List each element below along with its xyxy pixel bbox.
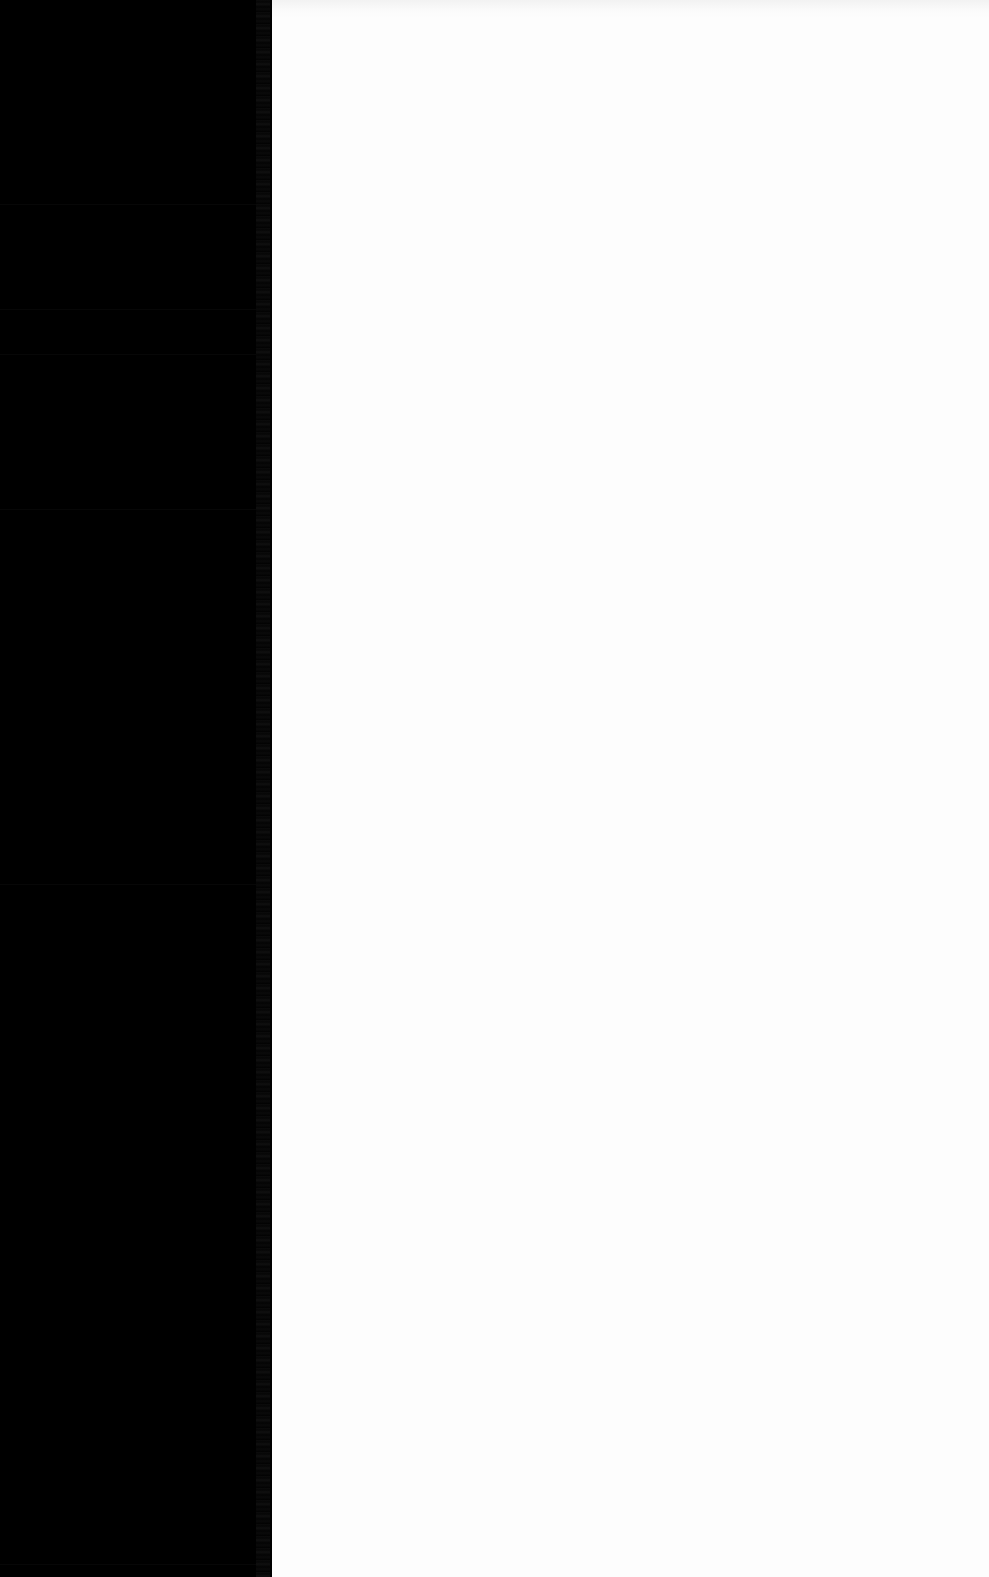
sidebar-item-3[interactable]	[0, 310, 256, 355]
faint-text-row	[290, 824, 978, 846]
main-content	[272, 0, 989, 1577]
sidebar-item-7[interactable]	[0, 1565, 256, 1577]
sidebar-item-5[interactable]	[0, 510, 256, 885]
sidebar-item-6[interactable]	[0, 885, 256, 1565]
app-window	[0, 0, 989, 1577]
sidebar-edge-strip	[256, 0, 270, 1577]
sidebar-item-2[interactable]	[0, 205, 256, 310]
sidebar-item-list	[0, 0, 272, 1577]
sidebar-item-1[interactable]	[0, 0, 256, 205]
content-top-band	[272, 0, 989, 18]
sidebar	[0, 0, 272, 1577]
sidebar-item-4[interactable]	[0, 355, 256, 510]
